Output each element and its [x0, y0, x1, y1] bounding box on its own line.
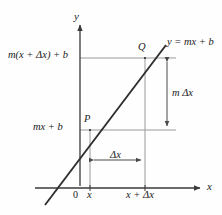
diagram-canvas [0, 0, 222, 215]
x-tick-label: x [87, 190, 92, 201]
plot-points [89, 57, 146, 131]
x-axis-label: x [207, 181, 212, 192]
line-y-equals-mx-plus-b [45, 45, 166, 205]
y-value-top-label: m(x + Δx) + b [8, 50, 68, 61]
point-q-label: Q [138, 42, 146, 53]
y-axis-label: y [74, 11, 79, 22]
rise-label: m Δx [172, 88, 193, 99]
point-p-label: P [84, 114, 90, 125]
slope-diagram-figure: y x 0 m(x + Δx) + b mx + b y = mx + b P … [0, 0, 222, 215]
origin-label: 0 [73, 190, 78, 200]
line-equation-label: y = mx + b [167, 37, 214, 48]
x-plus-dx-tick-label: x + Δx [126, 190, 154, 201]
y-value-bottom-label: mx + b [33, 122, 63, 133]
guide-lines [80, 58, 176, 188]
run-label: Δx [110, 150, 121, 161]
